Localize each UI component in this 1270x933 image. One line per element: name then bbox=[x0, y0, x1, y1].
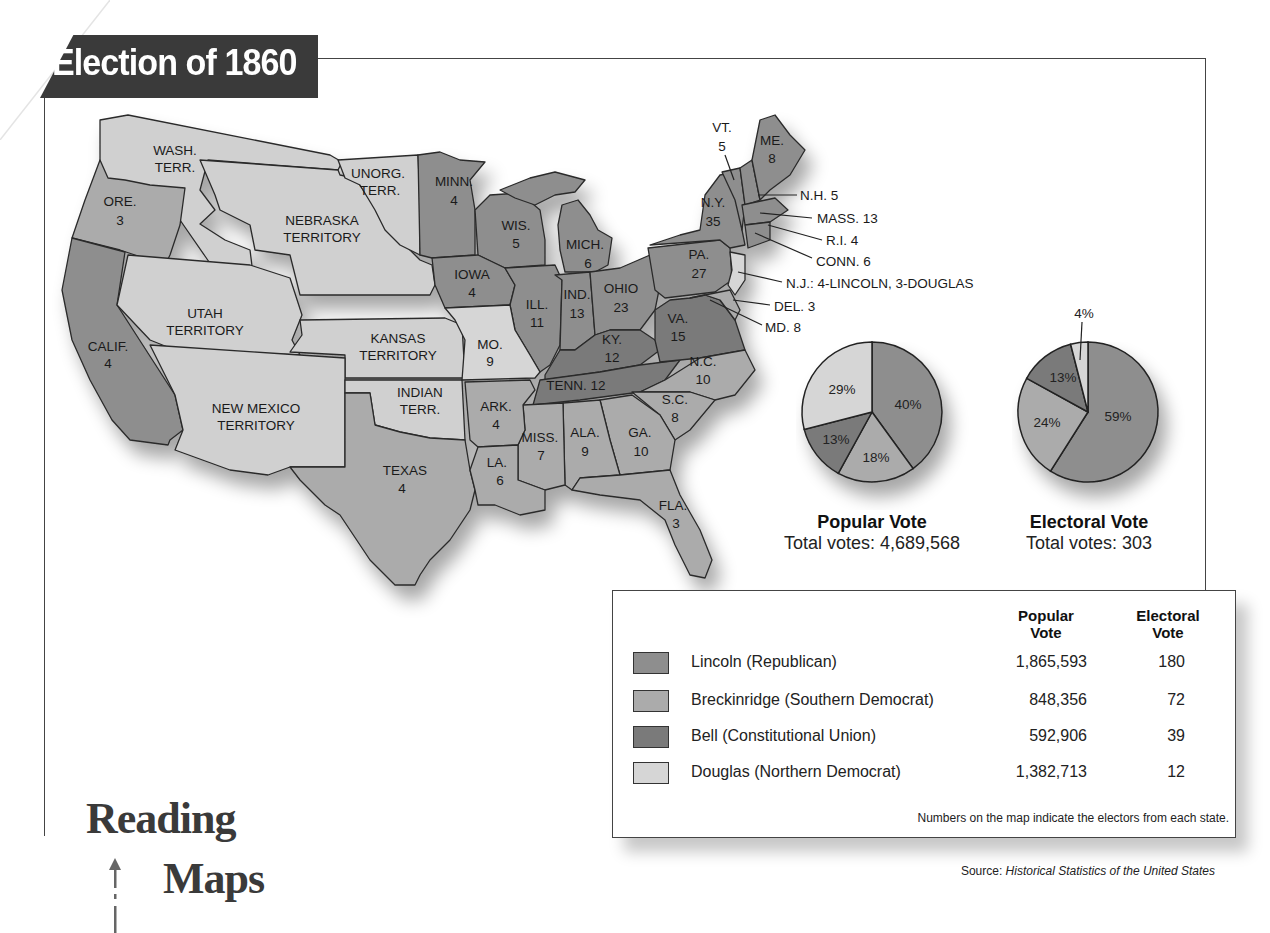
svg-text:TERRITORY: TERRITORY bbox=[359, 348, 437, 363]
legend-table: Popular Vote Electoral Vote Lincoln (Rep… bbox=[612, 590, 1236, 838]
svg-text:3: 3 bbox=[672, 516, 680, 531]
svg-text:MISS.: MISS. bbox=[522, 430, 559, 445]
electoral-vote-value: 12 bbox=[1167, 763, 1185, 781]
svg-text:CALIF.: CALIF. bbox=[88, 339, 129, 354]
svg-text:ARK.: ARK. bbox=[480, 399, 512, 414]
svg-text:4: 4 bbox=[398, 481, 406, 496]
source-title: Historical Statistics of the United Stat… bbox=[1006, 864, 1215, 878]
svg-text:N.H. 5: N.H. 5 bbox=[800, 188, 838, 203]
svg-text:N.C.: N.C. bbox=[690, 354, 717, 369]
region-connecticut bbox=[745, 222, 770, 248]
legend-row-bell: Bell (Constitutional Union) 592,906 39 bbox=[633, 724, 1233, 750]
svg-text:9: 9 bbox=[581, 444, 589, 459]
svg-text:TERR.: TERR. bbox=[360, 183, 401, 198]
svg-text:MASS. 13: MASS. 13 bbox=[817, 211, 878, 226]
svg-text:PA.: PA. bbox=[689, 247, 710, 262]
legend-row-lincoln: Lincoln (Republican) 1,865,593 180 bbox=[633, 650, 1233, 676]
svg-text:7: 7 bbox=[537, 448, 545, 463]
svg-text:OHIO: OHIO bbox=[604, 281, 639, 296]
svg-text:TERRITORY: TERRITORY bbox=[166, 323, 244, 338]
svg-text:NEBRASKA: NEBRASKA bbox=[285, 213, 359, 228]
electoral-vote-pie bbox=[1018, 342, 1158, 482]
svg-text:UTAH: UTAH bbox=[187, 306, 223, 321]
svg-text:TEXAS: TEXAS bbox=[383, 463, 427, 478]
svg-text:9: 9 bbox=[486, 354, 494, 369]
swatch-breckinridge bbox=[633, 690, 669, 712]
swatch-douglas bbox=[633, 762, 669, 784]
svg-text:ALA.: ALA. bbox=[570, 425, 599, 440]
svg-text:WIS.: WIS. bbox=[501, 218, 530, 233]
svg-text:24%: 24% bbox=[1033, 415, 1060, 430]
svg-text:IOWA: IOWA bbox=[454, 267, 490, 282]
svg-text:TENN. 12: TENN. 12 bbox=[546, 378, 605, 393]
svg-text:FLA.: FLA. bbox=[659, 498, 688, 513]
svg-text:R.I. 4: R.I. 4 bbox=[826, 233, 859, 248]
svg-text:IND.: IND. bbox=[564, 287, 591, 302]
electoral-vote-value: 39 bbox=[1167, 727, 1185, 745]
svg-text:N.J.: 4-LINCOLN, 3-DOUGLAS: N.J.: 4-LINCOLN, 3-DOUGLAS bbox=[786, 276, 974, 291]
svg-text:TERRITORY: TERRITORY bbox=[217, 418, 295, 433]
svg-text:10: 10 bbox=[633, 444, 648, 459]
svg-text:8: 8 bbox=[768, 151, 776, 166]
electoral-vote-caption: Electoral Vote Total votes: 303 bbox=[959, 512, 1219, 554]
svg-text:MINN.: MINN. bbox=[435, 174, 473, 189]
svg-text:VT.: VT. bbox=[712, 120, 732, 135]
legend-row-douglas: Douglas (Northern Democrat) 1,382,713 12 bbox=[633, 760, 1233, 786]
legend-note: Numbers on the map indicate the electors… bbox=[918, 811, 1230, 825]
svg-text:WASH.: WASH. bbox=[153, 143, 197, 158]
svg-text:TERR.: TERR. bbox=[400, 402, 441, 417]
svg-text:KY.: KY. bbox=[602, 332, 622, 347]
reading-label: Reading bbox=[86, 797, 235, 841]
candidate-name: Lincoln (Republican) bbox=[691, 653, 837, 671]
source-citation: Source: Historical Statistics of the Uni… bbox=[961, 864, 1215, 878]
svg-text:40%: 40% bbox=[894, 397, 921, 412]
candidate-name: Breckinridge (Southern Democrat) bbox=[691, 691, 934, 709]
svg-text:10: 10 bbox=[695, 372, 710, 387]
swatch-bell bbox=[633, 726, 669, 748]
popular-vote-value: 848,356 bbox=[1029, 691, 1087, 709]
candidate-name: Bell (Constitutional Union) bbox=[691, 727, 876, 745]
swatch-lincoln bbox=[633, 652, 669, 674]
callout-labels: N.H. 5 MASS. 13 R.I. 4 CONN. 6 N.J.: 4-L… bbox=[765, 188, 974, 335]
svg-text:6: 6 bbox=[584, 256, 592, 271]
popular-vote-value: 592,906 bbox=[1029, 727, 1087, 745]
svg-text:DEL. 3: DEL. 3 bbox=[774, 299, 815, 314]
electoral-vote-total: Total votes: 303 bbox=[959, 533, 1219, 554]
svg-text:TERRITORY: TERRITORY bbox=[283, 230, 361, 245]
svg-text:CONN. 6: CONN. 6 bbox=[816, 254, 871, 269]
region-utah-terr bbox=[117, 255, 302, 355]
svg-text:59%: 59% bbox=[1104, 409, 1131, 424]
candidate-name: Douglas (Northern Democrat) bbox=[691, 763, 901, 781]
svg-text:4: 4 bbox=[492, 417, 500, 432]
legend-header-popular: Popular Vote bbox=[1001, 607, 1091, 641]
region-florida bbox=[572, 470, 712, 578]
svg-text:27: 27 bbox=[691, 266, 706, 281]
svg-text:11: 11 bbox=[530, 315, 544, 330]
electoral-vote-value: 180 bbox=[1158, 653, 1185, 671]
svg-text:MICH.: MICH. bbox=[566, 237, 604, 252]
svg-text:N.Y.: N.Y. bbox=[701, 195, 726, 210]
legend-header-electoral: Electoral Vote bbox=[1123, 607, 1213, 641]
svg-text:8: 8 bbox=[671, 410, 679, 425]
svg-text:NEW MEXICO: NEW MEXICO bbox=[212, 401, 301, 416]
svg-text:VA.: VA. bbox=[668, 311, 689, 326]
svg-text:15: 15 bbox=[670, 329, 685, 344]
svg-text:ME.: ME. bbox=[760, 133, 784, 148]
up-arrow-icon bbox=[108, 858, 122, 933]
svg-text:ILL.: ILL. bbox=[526, 297, 549, 312]
svg-text:GA.: GA. bbox=[628, 425, 651, 440]
svg-text:LA.: LA. bbox=[487, 455, 507, 470]
svg-text:4: 4 bbox=[450, 193, 458, 208]
svg-text:3: 3 bbox=[116, 213, 124, 228]
svg-text:29%: 29% bbox=[828, 382, 855, 397]
svg-text:S.C.: S.C. bbox=[662, 392, 688, 407]
svg-text:4: 4 bbox=[468, 285, 476, 300]
svg-text:KANSAS: KANSAS bbox=[371, 331, 426, 346]
source-prefix: Source: bbox=[961, 864, 1006, 878]
region-mississippi bbox=[518, 403, 565, 490]
svg-text:MD. 8: MD. 8 bbox=[765, 320, 801, 335]
svg-text:5: 5 bbox=[512, 236, 520, 251]
svg-text:5: 5 bbox=[718, 139, 726, 154]
svg-text:18%: 18% bbox=[862, 450, 889, 465]
svg-text:12: 12 bbox=[604, 350, 619, 365]
